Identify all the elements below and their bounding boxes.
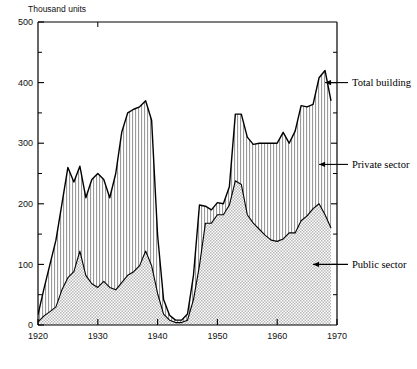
y-axis-unit-text: Thousand units: [28, 4, 86, 14]
x-tick-label: 1960: [267, 331, 287, 341]
y-axis-unit-label: Thousand units: [28, 4, 86, 14]
y-tick-label: 100: [18, 260, 33, 270]
y-tick-label: 400: [18, 78, 33, 88]
figure-caption: [6, 358, 411, 369]
y-tick-label: 0: [28, 320, 33, 330]
x-tick-label: 1920: [28, 331, 48, 341]
x-tick-label: 1930: [88, 331, 108, 341]
annotation-label-public-sector: Public sector: [352, 259, 407, 270]
y-tick-label: 500: [18, 17, 33, 27]
chart-canvas: Thousand units 0100200300400500 19201930…: [0, 0, 417, 369]
y-tick-label: 200: [18, 199, 33, 209]
chart-area-layers: [38, 70, 331, 325]
x-tick-label: 1970: [327, 331, 347, 341]
annotation-label-private-sector: Private sector: [352, 159, 410, 170]
x-tick-label: 1940: [148, 331, 168, 341]
annotation-label-total-building: Total building: [352, 77, 412, 88]
building-output-chart: Thousand units 0100200300400500 19201930…: [0, 0, 417, 369]
x-tick-label: 1950: [207, 331, 227, 341]
y-tick-label: 300: [18, 138, 33, 148]
